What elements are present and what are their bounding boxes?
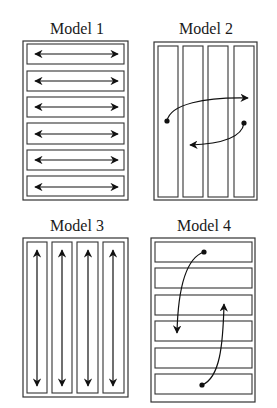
panel-model-2: Model 2 <box>154 20 257 200</box>
vertical-columns <box>27 242 124 393</box>
curved-arrow-icon <box>202 304 224 385</box>
panel-model-1: Model 1 <box>23 20 128 200</box>
band <box>155 321 252 341</box>
column <box>208 46 228 197</box>
panel-model-3: Model 3 <box>23 217 128 397</box>
panel-title: Model 3 <box>50 217 104 234</box>
band <box>27 176 124 196</box>
diagram-canvas: Model 1 Model 2 <box>0 0 277 408</box>
panel-title: Model 1 <box>50 20 104 37</box>
band <box>155 348 252 368</box>
column <box>183 46 203 197</box>
horizontal-bands <box>27 44 124 196</box>
panel-title: Model 4 <box>177 217 231 234</box>
panel-model-4: Model 4 <box>151 217 255 402</box>
horizontal-bands <box>155 242 252 394</box>
band <box>155 295 252 315</box>
vertical-columns <box>158 46 254 197</box>
band <box>155 268 252 288</box>
panel-title: Model 2 <box>179 20 233 37</box>
double-arrows-vertical <box>37 250 113 386</box>
